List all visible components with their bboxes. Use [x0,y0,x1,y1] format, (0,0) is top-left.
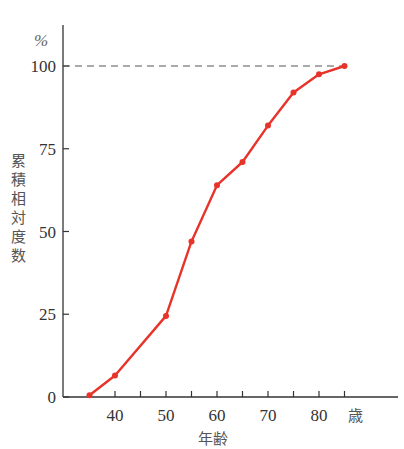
data-point [316,71,322,77]
x-tick-label: 60 [209,406,226,425]
y-title-char: 数 [11,247,26,265]
x-tick-label: 80 [311,406,328,425]
x-axis-title: 年齢 [198,430,228,448]
y-title-char: 対 [11,209,26,227]
x-tick-label: 40 [107,406,124,425]
data-point [87,392,93,398]
x-tick-label: 70 [260,406,277,425]
data-point [112,372,118,378]
y-tick-label: 25 [39,305,56,324]
series-line [90,66,345,395]
y-tick-label: 100 [31,57,57,76]
y-title-char: 積 [11,171,26,189]
ticks: 02550751004050607080 [31,57,345,425]
cumulative-frequency-chart: 02550751004050607080 % 歳 年齢 累積相対度数 [0,0,404,449]
data-point [189,238,195,244]
data-point [163,313,169,319]
y-axis-title: 累積相対度数 [11,152,26,265]
axes [63,25,398,397]
y-unit-label: % [34,31,48,50]
data-series [87,63,348,398]
x-unit-label: 歳 [348,407,363,425]
y-tick-label: 0 [48,388,57,407]
data-point [214,182,220,188]
data-point [265,123,271,129]
data-point [342,63,348,69]
y-title-char: 累 [11,152,26,170]
y-tick-label: 50 [39,223,56,242]
y-title-char: 相 [11,190,26,208]
y-title-char: 度 [11,228,26,246]
data-point [291,89,297,95]
y-tick-label: 75 [39,140,56,159]
data-point [240,159,246,165]
x-tick-label: 50 [158,406,175,425]
